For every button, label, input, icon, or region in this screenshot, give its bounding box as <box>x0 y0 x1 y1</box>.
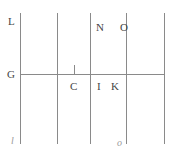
point-label-I: I <box>97 81 101 92</box>
geometry-figure: L N O G C I K l o <box>0 0 179 157</box>
vertical-lines <box>21 13 165 144</box>
point-label-N: N <box>96 22 104 33</box>
point-label-l-lower: l <box>11 136 14 146</box>
point-label-O: O <box>120 22 128 33</box>
point-label-K: K <box>111 81 119 92</box>
point-label-G: G <box>7 69 15 80</box>
point-label-L: L <box>8 16 15 27</box>
point-label-C: C <box>70 81 77 92</box>
figure-canvas <box>0 0 179 157</box>
point-label-o-lower: o <box>117 138 122 148</box>
